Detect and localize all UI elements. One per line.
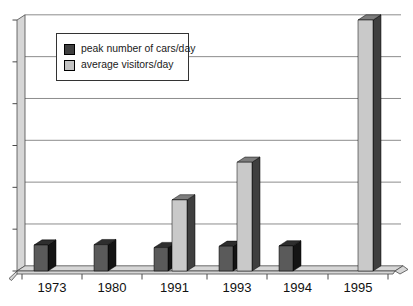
bar-peak-number-of-cars-day-1980 [94, 245, 108, 271]
floor-top [17, 266, 403, 271]
bar-peak-number-of-cars-day-1991 [154, 248, 168, 271]
legend-label-cars: peak number of cars/day [81, 44, 195, 54]
x-axis-label-1994: 1994 [283, 280, 312, 295]
bar-average-visitors-day-1993-side [252, 157, 260, 271]
floor-front [15, 271, 395, 274]
x-axis-label-1995: 1995 [344, 280, 373, 295]
x-axis-label-1993: 1993 [223, 280, 252, 295]
legend-label-visitors: average visitors/day [81, 60, 173, 70]
legend-swatch-cars-icon [64, 44, 75, 55]
bar-average-visitors-day-1993 [237, 162, 252, 271]
legend-swatch-visitors-icon [64, 60, 75, 71]
bar-peak-number-of-cars-day-1994 [279, 246, 293, 271]
bar-peak-number-of-cars-day-1980-side [108, 239, 116, 271]
legend-item-cars: peak number of cars/day [64, 44, 188, 55]
bar-average-visitors-day-1995 [358, 20, 373, 271]
bar-chart-screenshot: 197319801991199319941995 peak number of … [0, 0, 413, 306]
bar-average-visitors-day-1991 [172, 200, 187, 271]
bar-average-visitors-day-1995-side [373, 15, 381, 271]
floor-left-foot [9, 271, 17, 281]
bar-average-visitors-day-1991-side [187, 195, 195, 271]
bar-peak-number-of-cars-day-1973 [34, 245, 48, 271]
legend: peak number of cars/day average visitors… [56, 33, 189, 81]
legend-item-visitors: average visitors/day [64, 60, 188, 71]
x-axis-label-1980: 1980 [98, 280, 127, 295]
x-axis-label-1973: 1973 [38, 280, 67, 295]
bar-peak-number-of-cars-day-1993 [219, 246, 233, 271]
x-axis-label-1991: 1991 [160, 280, 189, 295]
y-axis-wall [17, 15, 25, 271]
